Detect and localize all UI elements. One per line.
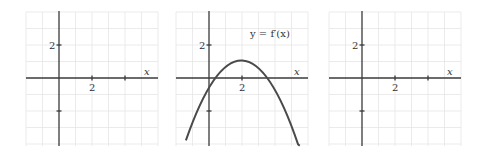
x-axis-label: x (447, 66, 453, 77)
panel-2-derivative-graph: 2 2 x y = f′(x) (176, 11, 308, 146)
y-tick-label: 2 (352, 40, 358, 51)
y-tick-label: 2 (49, 40, 55, 51)
y-tick-label: 2 (199, 40, 205, 51)
graphs-figure: 2 2 x 2 2 x y = f′(x) (0, 0, 485, 156)
x-tick-label: 2 (89, 82, 95, 93)
curve-label: y = f′(x) (249, 28, 290, 39)
x-tick-label: 2 (239, 82, 245, 93)
derivative-curve (186, 60, 300, 145)
x-axis-label: x (144, 66, 150, 77)
x-axis-label: x (294, 66, 300, 77)
panel-3-blank-grid: 2 2 x (329, 11, 461, 146)
x-tick-label: 2 (392, 82, 398, 93)
panel-1-blank-grid: 2 2 x (26, 11, 158, 146)
